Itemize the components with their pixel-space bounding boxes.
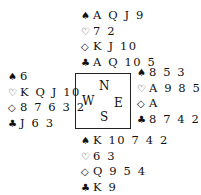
east-spades: ♠8 5 3 bbox=[137, 65, 201, 81]
south-hearts: ♡6 3 bbox=[81, 149, 169, 165]
west-clubs: ♣J 6 3 bbox=[8, 116, 86, 132]
west-hand: ♠6 ♡K Q J 10 ◇8 7 6 3 2 ♣J 6 3 bbox=[8, 69, 86, 131]
north-spades: ♠A Q J 9 bbox=[81, 8, 156, 24]
north-diamonds: ◇K J 10 bbox=[81, 39, 156, 55]
south-spades: ♠K 10 7 4 2 bbox=[81, 133, 169, 149]
north-hearts: ♡7 2 bbox=[81, 24, 156, 40]
west-diamonds: ◇8 7 6 3 2 bbox=[8, 100, 86, 116]
diamond-icon: ◇ bbox=[81, 164, 93, 180]
east-diamonds: ◇A bbox=[137, 96, 201, 112]
heart-icon: ♡ bbox=[137, 81, 149, 97]
heart-icon: ♡ bbox=[81, 149, 93, 165]
east-hearts: ♡A 9 8 5 4 bbox=[137, 81, 201, 97]
spade-icon: ♠ bbox=[81, 133, 93, 149]
south-hand: ♠K 10 7 4 2 ♡6 3 ◇Q 9 5 4 ♣K 9 bbox=[81, 133, 169, 194]
south-diamonds: ◇Q 9 5 4 bbox=[81, 164, 169, 180]
diamond-icon: ◇ bbox=[137, 96, 149, 112]
compass-east-label: E bbox=[114, 97, 123, 109]
west-hearts: ♡K Q J 10 bbox=[8, 85, 86, 101]
spade-icon: ♠ bbox=[137, 65, 149, 81]
east-clubs: ♣8 7 4 2 bbox=[137, 112, 201, 128]
heart-icon: ♡ bbox=[81, 24, 93, 40]
east-hand: ♠8 5 3 ♡A 9 8 5 4 ◇A ♣8 7 4 2 bbox=[137, 65, 201, 127]
club-icon: ♣ bbox=[8, 116, 20, 132]
compass-north-label: N bbox=[99, 80, 110, 92]
west-spades: ♠6 bbox=[8, 69, 86, 85]
north-hand: ♠A Q J 9 ♡7 2 ◇K J 10 ♣A Q 10 5 bbox=[81, 8, 156, 70]
south-clubs: ♣K 9 bbox=[81, 180, 169, 195]
heart-icon: ♡ bbox=[8, 85, 20, 101]
spade-icon: ♠ bbox=[8, 69, 20, 85]
compass-south-label: S bbox=[100, 111, 108, 123]
club-icon: ♣ bbox=[81, 55, 93, 71]
club-icon: ♣ bbox=[137, 112, 149, 128]
spade-icon: ♠ bbox=[81, 8, 93, 24]
diamond-icon: ◇ bbox=[81, 39, 93, 55]
club-icon: ♣ bbox=[81, 180, 93, 195]
diamond-icon: ◇ bbox=[8, 100, 20, 116]
compass-west-label: W bbox=[82, 95, 94, 107]
compass-box: N W E S bbox=[75, 73, 131, 129]
